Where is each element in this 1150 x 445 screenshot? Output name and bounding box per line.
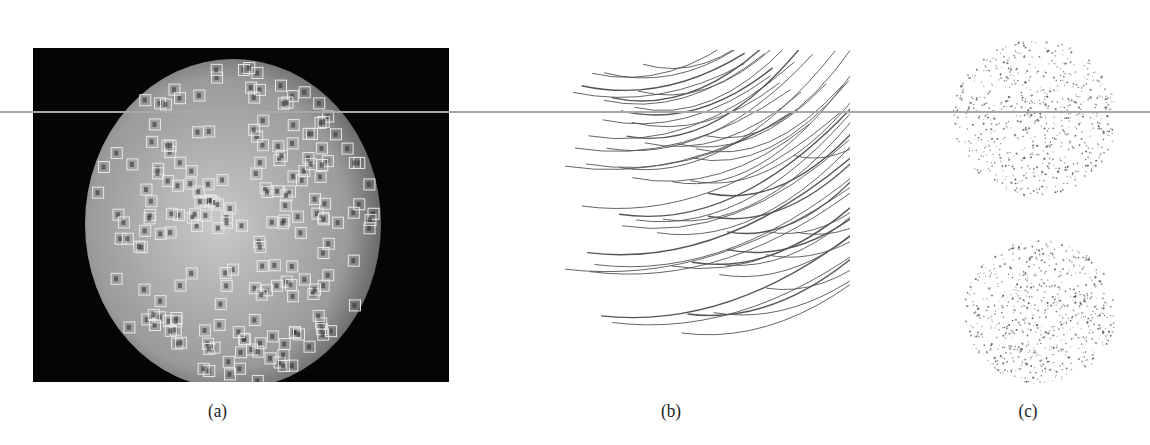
panel-b-tracks [560, 50, 850, 370]
track-curves-plot [560, 50, 850, 370]
panel-a-image [33, 48, 449, 382]
horizontal-rule-line [0, 111, 1150, 113]
caption-a: (a) [208, 400, 227, 422]
caption-c: (c) [1006, 400, 1051, 422]
caption-b: (b) [491, 400, 851, 422]
detection-boxes-image [33, 48, 449, 382]
point-cloud-plot [940, 30, 1150, 390]
panel-c-point-clouds [940, 30, 1150, 390]
